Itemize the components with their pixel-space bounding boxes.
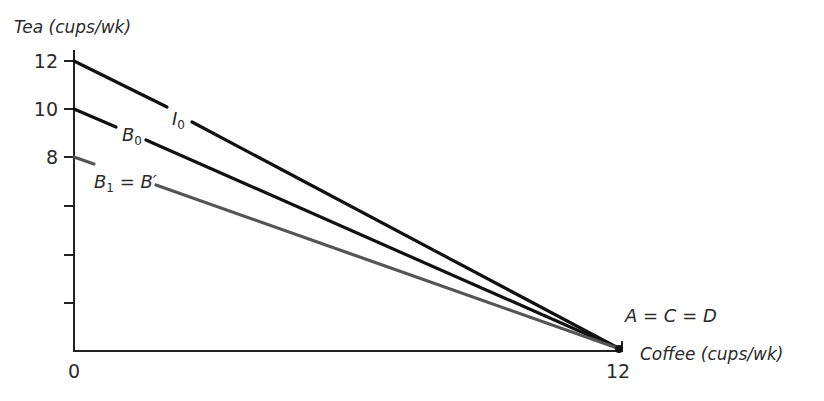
y-ticks <box>64 61 74 303</box>
series-b0-line <box>74 109 620 349</box>
x-tick-label-0: 0 <box>68 360 80 382</box>
y-tick-label-12: 12 <box>34 50 58 72</box>
point-annotation: A = C = D <box>624 305 717 326</box>
x-tick-label-12: 12 <box>606 360 630 382</box>
y-axis-title: Tea (cups/wk) <box>14 17 131 37</box>
label-b0: B0 <box>122 124 142 148</box>
series-i0-line <box>74 61 620 349</box>
y-tick-label-8: 8 <box>46 146 58 168</box>
x-axis-title: Coffee (cups/wk) <box>640 344 783 364</box>
point-a-c-d-marker <box>615 345 623 353</box>
label-i0: I0 <box>172 108 185 132</box>
chart-canvas: 12 10 8 0 12 Tea (cups/wk) Coffee (cups/… <box>0 0 824 401</box>
y-tick-label-10: 10 <box>34 98 58 120</box>
label-b1-eq-bprime: B1 = B′ <box>94 171 157 195</box>
